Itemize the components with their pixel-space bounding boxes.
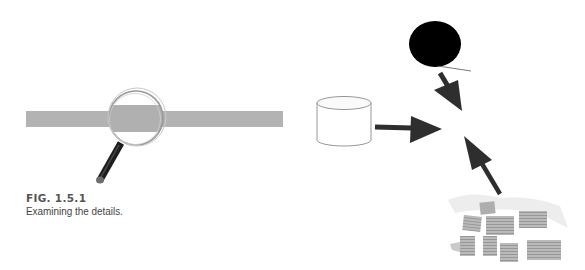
figure-label: FIG. 1.5.1 [26, 192, 134, 204]
magnified-bar [26, 105, 283, 132]
magnifying-glass-icon [96, 88, 166, 184]
document-icon [500, 243, 518, 262]
figure-caption: FIG. 1.5.1 Examining the details. [26, 192, 134, 217]
figure-illustration [0, 0, 585, 270]
document-icon [483, 236, 497, 256]
arrow-icon [464, 136, 500, 194]
document-icon [486, 216, 514, 235]
document-icon [479, 201, 495, 215]
figure-caption-text: Examining the details. [26, 205, 123, 217]
document-icon [460, 236, 475, 256]
document-pile-icon [448, 194, 568, 262]
document-icon [462, 215, 481, 232]
arrow-icon [434, 73, 462, 111]
person-head-icon [409, 21, 471, 71]
arrow-icon [375, 116, 442, 143]
document-icon [519, 211, 547, 228]
database-cylinder-icon [317, 97, 371, 147]
document-icon [527, 240, 561, 260]
